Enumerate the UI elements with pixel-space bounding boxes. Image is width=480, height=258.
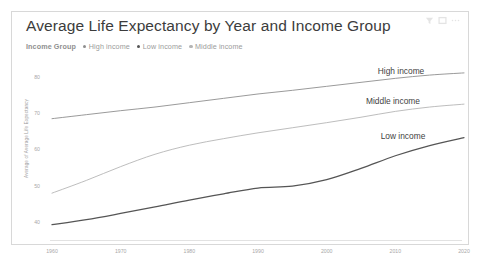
- visualization-card: Average Life Expectancy by Year and Inco…: [11, 11, 469, 245]
- legend-swatch-low-income: [137, 45, 140, 48]
- legend: Income Group High income Low income Midd…: [26, 42, 250, 51]
- legend-title: Income Group: [26, 42, 76, 51]
- legend-swatch-high-income: [83, 45, 86, 48]
- x-tick-label: 1980: [184, 248, 196, 254]
- x-tick-label: 1990: [252, 248, 264, 254]
- card-toolbar[interactable]: [425, 16, 460, 25]
- focus-mode-icon[interactable]: [438, 16, 447, 25]
- series-lines: [12, 58, 468, 244]
- line-low-income: [52, 138, 464, 225]
- more-options-icon[interactable]: [451, 16, 460, 25]
- series-label-low-income: Low income: [381, 131, 426, 141]
- series-label-high-income: High income: [378, 66, 425, 76]
- x-tick-label: 2000: [321, 248, 333, 254]
- x-tick-label: 1960: [46, 248, 58, 254]
- x-tick-label: 2020: [458, 248, 470, 254]
- legend-label-low-income: Low income: [143, 42, 182, 51]
- legend-item-middle-income[interactable]: Middle income: [189, 42, 243, 51]
- series-label-middle-income: Middle income: [366, 96, 420, 106]
- plot-area: Average of Average Life Expectancy 40506…: [12, 58, 468, 244]
- legend-swatch-middle-income: [189, 45, 192, 48]
- legend-label-middle-income: Middle income: [195, 42, 243, 51]
- filter-icon[interactable]: [425, 16, 434, 25]
- x-tick-label: 2010: [390, 248, 402, 254]
- legend-label-high-income: High income: [89, 42, 130, 51]
- line-middle-income: [52, 104, 464, 193]
- legend-item-low-income[interactable]: Low income: [137, 42, 182, 51]
- legend-item-high-income[interactable]: High income: [83, 42, 130, 51]
- chart-title: Average Life Expectancy by Year and Inco…: [26, 17, 391, 35]
- x-tick-label: 1970: [115, 248, 127, 254]
- card-header: Average Life Expectancy by Year and Inco…: [12, 12, 468, 58]
